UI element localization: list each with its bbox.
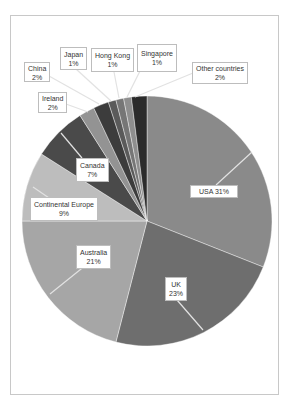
leader-line bbox=[76, 69, 111, 101]
label-name: UK bbox=[169, 280, 183, 289]
label-name: USA 31% bbox=[194, 187, 234, 196]
data-label-uk: UK23% bbox=[165, 277, 187, 301]
label-name: Hong Kong bbox=[95, 51, 130, 60]
label-name: Ireland bbox=[42, 94, 63, 103]
label-name: Continental Europe bbox=[34, 200, 94, 209]
label-name: Canada bbox=[80, 161, 105, 170]
data-label-other-countries: Other countries2% bbox=[192, 62, 248, 84]
label-percent: 1% bbox=[95, 60, 130, 69]
label-name: Australia bbox=[80, 248, 107, 257]
label-percent: 2% bbox=[196, 73, 244, 82]
leader-line bbox=[66, 104, 88, 112]
label-name: Singapore bbox=[141, 49, 173, 58]
label-percent: 2% bbox=[28, 73, 46, 82]
data-label-usa: USA 31% bbox=[190, 185, 238, 198]
data-label-singapore: Singapore1% bbox=[137, 44, 177, 72]
label-percent: 1% bbox=[141, 58, 173, 67]
leader-line bbox=[127, 71, 140, 97]
label-name: Other countries bbox=[196, 64, 244, 73]
label-name: Japan bbox=[64, 50, 83, 59]
label-name: China bbox=[28, 64, 46, 73]
label-percent: 21% bbox=[80, 257, 107, 266]
leader-line bbox=[135, 73, 193, 97]
label-percent: 1% bbox=[64, 59, 83, 68]
data-label-china: China2% bbox=[24, 62, 50, 82]
leader-line bbox=[114, 72, 119, 98]
data-label-hong-kong: Hong Kong1% bbox=[91, 48, 134, 72]
label-percent: 23% bbox=[169, 289, 183, 298]
data-label-australia: Australia21% bbox=[76, 245, 111, 269]
data-label-ireland: Ireland2% bbox=[38, 92, 67, 113]
data-label-continental-europe: Continental Europe9% bbox=[30, 197, 98, 221]
label-percent: 2% bbox=[42, 103, 63, 112]
label-percent: 7% bbox=[80, 170, 105, 179]
label-percent: 9% bbox=[34, 209, 94, 218]
data-label-canada: Canada7% bbox=[76, 158, 109, 182]
data-label-japan: Japan1% bbox=[60, 47, 87, 70]
